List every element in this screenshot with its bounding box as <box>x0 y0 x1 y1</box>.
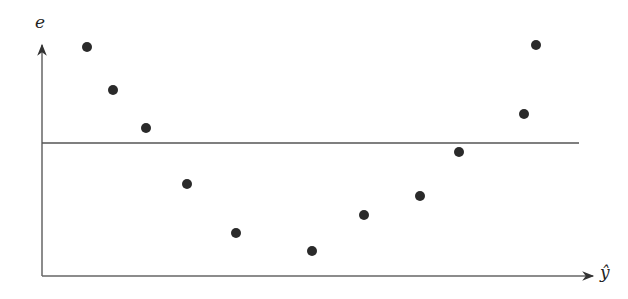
x-axis-label: ŷ <box>600 262 610 282</box>
residual-plot: e ŷ <box>0 0 628 299</box>
plot-canvas <box>0 0 628 299</box>
data-point <box>415 191 425 201</box>
data-point <box>108 85 118 95</box>
data-point <box>531 40 541 50</box>
data-point <box>82 42 92 52</box>
data-points <box>82 40 541 256</box>
data-point <box>519 109 529 119</box>
data-point <box>454 147 464 157</box>
data-point <box>182 179 192 189</box>
data-point <box>141 123 151 133</box>
data-point <box>359 210 369 220</box>
data-point <box>307 246 317 256</box>
y-axis-label: e <box>35 12 45 32</box>
data-point <box>231 228 241 238</box>
